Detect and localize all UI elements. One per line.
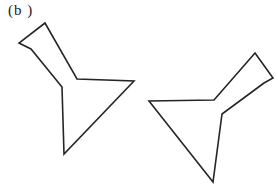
flask-shape-left [19,23,134,154]
figure-panel: (b ) [0,0,278,189]
flask-shape-right [149,53,273,182]
shapes-canvas [0,0,278,189]
